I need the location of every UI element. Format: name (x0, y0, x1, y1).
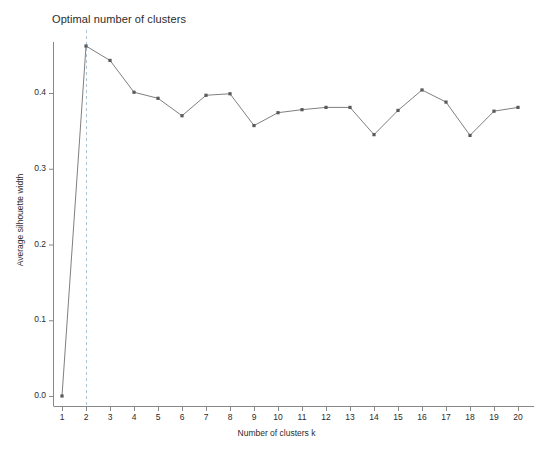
data-point-marker (204, 94, 207, 97)
series-line (62, 46, 518, 396)
x-tick-label: 4 (123, 412, 145, 422)
x-tick-label: 20 (507, 412, 529, 422)
x-tick-label: 11 (291, 412, 313, 422)
x-tick-label: 7 (195, 412, 217, 422)
data-point-marker (516, 106, 519, 109)
data-point-marker (252, 124, 255, 127)
data-point-marker (60, 394, 63, 397)
silhouette-line-series (62, 46, 518, 396)
plot-area (0, 0, 553, 453)
x-tick-label: 5 (147, 412, 169, 422)
data-point-marker (468, 134, 471, 137)
x-tick-label: 18 (459, 412, 481, 422)
x-tick-label: 2 (75, 412, 97, 422)
data-point-marker (276, 111, 279, 114)
data-point-marker (300, 108, 303, 111)
x-tick-label: 19 (483, 412, 505, 422)
y-tick-label: 0.1 (20, 314, 46, 324)
y-tick-label: 0.3 (20, 163, 46, 173)
data-point-marker (372, 133, 375, 136)
data-point-marker (228, 92, 231, 95)
axis-lines (54, 42, 535, 407)
x-tick-label: 9 (243, 412, 265, 422)
x-tick-label: 13 (339, 412, 361, 422)
x-axis-ticks (63, 407, 519, 412)
x-tick-label: 17 (435, 412, 457, 422)
x-tick-label: 6 (171, 412, 193, 422)
data-point-marker (348, 106, 351, 109)
x-tick-label: 15 (387, 412, 409, 422)
silhouette-chart: Optimal number of clusters Number of clu… (0, 0, 553, 453)
data-point-marker (108, 59, 111, 62)
x-tick-label: 8 (219, 412, 241, 422)
data-point-marker (156, 97, 159, 100)
y-tick-label: 0.4 (20, 87, 46, 97)
data-point-marker (180, 114, 183, 117)
y-axis-ticks (49, 94, 54, 397)
data-point-marker (132, 91, 135, 94)
data-point-marker (396, 109, 399, 112)
data-point-marker (324, 106, 327, 109)
x-tick-label: 10 (267, 412, 289, 422)
data-point-markers (60, 44, 519, 397)
data-point-marker (492, 110, 495, 113)
data-point-marker (84, 44, 87, 47)
x-tick-label: 14 (363, 412, 385, 422)
y-tick-label: 0.0 (20, 390, 46, 400)
data-point-marker (444, 100, 447, 103)
x-tick-label: 12 (315, 412, 337, 422)
x-tick-label: 16 (411, 412, 433, 422)
x-tick-label: 3 (99, 412, 121, 422)
y-tick-label: 0.2 (20, 239, 46, 249)
data-point-marker (420, 88, 423, 91)
x-tick-label: 1 (51, 412, 73, 422)
